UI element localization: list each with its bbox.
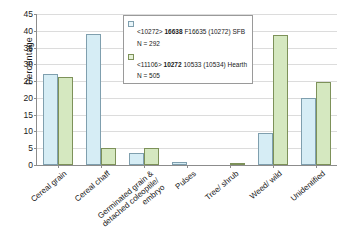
- legend-n-series1: N = 505: [137, 72, 247, 79]
- x-tick-mark: [273, 165, 274, 168]
- bar[interactable]: [301, 98, 316, 165]
- legend-item-0[interactable]: <10272> 16638 F16635 (10272) SFB N = 292: [128, 20, 247, 47]
- legend-prefix-series1: <11106>: [137, 61, 162, 68]
- bar[interactable]: [58, 77, 73, 165]
- legend-bold-series0: 16638: [164, 28, 182, 35]
- bar[interactable]: [43, 74, 58, 165]
- y-tick-label: 20: [24, 93, 33, 103]
- bar-group: [80, 14, 123, 165]
- x-tick-label: Cereal grain: [30, 169, 69, 204]
- legend-label-series1: <11106> 10272 10533 (10534) Hearth: [137, 61, 247, 68]
- y-tick-label: 45: [24, 9, 33, 19]
- x-tick-mark: [187, 165, 188, 168]
- legend-item-1[interactable]: <11106> 10272 10533 (10534) Hearth N = 5…: [128, 53, 247, 80]
- legend-swatch-icon-series1: [128, 54, 134, 60]
- x-tick-mark: [101, 165, 102, 168]
- legend-suffix-series1: 10533 (10534) Hearth: [183, 61, 247, 68]
- bar[interactable]: [258, 133, 273, 165]
- x-tick-mark: [230, 165, 231, 168]
- bar[interactable]: [101, 148, 116, 165]
- x-tick-label: Weed/ wild: [248, 169, 284, 201]
- bar[interactable]: [172, 162, 187, 165]
- legend-swatch-icon-series0: [128, 21, 134, 27]
- y-tick-label: 5: [28, 143, 33, 153]
- x-tick-mark: [144, 165, 145, 168]
- x-tick-label: Pulses: [174, 169, 198, 191]
- y-tick-label: 10: [24, 126, 33, 136]
- y-tick-label: 40: [24, 26, 33, 36]
- legend-n-series0: N = 292: [137, 40, 245, 47]
- y-tick-label: 30: [24, 59, 33, 69]
- bar[interactable]: [86, 34, 101, 165]
- y-tick-label: 15: [24, 110, 33, 120]
- bar[interactable]: [316, 82, 331, 165]
- legend-label-series0: <10272> 16638 F16635 (10272) SFB: [137, 28, 245, 35]
- x-tick-label: Unidentified: [288, 169, 326, 203]
- bar-group: [294, 14, 337, 165]
- bar[interactable]: [129, 153, 144, 165]
- y-tick-label: 25: [24, 76, 33, 86]
- bar-group: [37, 14, 80, 165]
- legend-prefix-series0: <10272>: [137, 28, 163, 35]
- y-tick-label: 0: [28, 160, 33, 170]
- y-tick-label: 35: [24, 43, 33, 53]
- bar[interactable]: [273, 35, 288, 165]
- legend-bold-series1: 10272: [164, 61, 182, 68]
- bar-chart: Percentage 051015202530354045 Cereal gra…: [0, 0, 350, 234]
- bar-group: [251, 14, 294, 165]
- bar[interactable]: [144, 148, 159, 165]
- x-tick-label: Cereal chaff: [73, 169, 112, 204]
- x-tick-label: Tree/ shrub: [203, 169, 240, 202]
- bar[interactable]: [230, 163, 245, 165]
- chart-legend: <10272> 16638 F16635 (10272) SFB N = 292…: [123, 15, 253, 84]
- y-tick-mark: [34, 165, 37, 166]
- x-tick-mark: [58, 165, 59, 168]
- x-tick-mark: [316, 165, 317, 168]
- legend-suffix-series0: F16635 (10272) SFB: [184, 28, 245, 35]
